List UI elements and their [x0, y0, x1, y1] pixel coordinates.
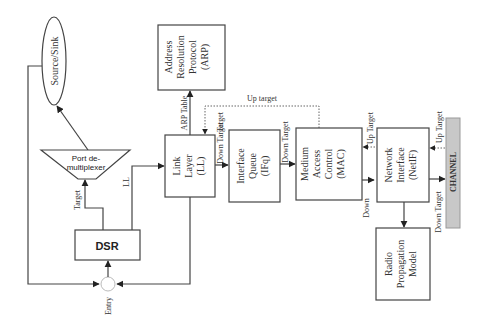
channel-label: CHANNEL: [449, 152, 458, 192]
dsr-label: DSR: [95, 240, 118, 252]
ns2-mobile-node-diagram: Source/Sink Port de- multiplexer Target …: [0, 0, 484, 323]
radio-propagation-node: Radio Propagation Model: [376, 228, 430, 300]
demux-to-sink-arrow: [57, 106, 88, 150]
mac-up-target-label: Up Target: [366, 111, 375, 144]
netif-label-line2: Interface: [395, 147, 406, 183]
mac-label-line1: Medium: [299, 147, 310, 181]
dsr-to-demux-arrow: [85, 180, 103, 230]
arp-label-line2: Resolution: [175, 35, 186, 78]
mac-down-label: Down: [362, 198, 371, 218]
radio-label-line3: Model: [407, 251, 418, 277]
radio-label-line1: Radio: [383, 252, 394, 276]
ll-label-line3: (LL): [195, 157, 207, 176]
source-sink-label: Source/Sink: [49, 37, 60, 86]
entry-label: Entry: [104, 297, 113, 315]
demux-label-line2: multiplexer: [67, 163, 106, 172]
radio-label-line2: Propagation: [395, 240, 406, 288]
netif-up-target-label: Up Target: [435, 110, 444, 143]
arp-label-line1: Address: [163, 41, 174, 74]
mac-label-line4: (MAC): [335, 149, 347, 178]
netif-label-line3: (NetIF): [407, 150, 419, 180]
arp-node: Address Resolution Protocol (ARP): [158, 25, 225, 90]
mac-label-line2: Access: [311, 150, 322, 178]
source-sink-node: Source/Sink: [42, 17, 66, 105]
entry-node: Entry: [101, 277, 115, 315]
ll-edge-label: LL: [122, 177, 131, 187]
up-target-top-label: Up target: [247, 94, 278, 103]
netif-down-target-label: Down Target: [434, 190, 443, 232]
interface-queue-node: Interface Queue (IFq): [229, 130, 280, 202]
ll-label-line1: Link: [171, 157, 182, 176]
arp-table-label: ARP Table: [180, 95, 189, 130]
demux-label-line1: Port de-: [72, 154, 101, 163]
ifq-label-line3: (IFq): [259, 156, 271, 177]
dsr-to-ll-arrow: [132, 166, 164, 230]
network-interface-node: Network Interface (NetIF): [377, 128, 429, 202]
link-layer-node: Link Layer (LL): [165, 135, 215, 197]
dsr-node: DSR: [75, 230, 140, 260]
ifq-label-line1: Interface: [235, 148, 246, 184]
arp-label-line4: (ARP): [199, 44, 211, 70]
mac-label-line3: Control: [323, 149, 334, 180]
mac-node: Medium Access Control (MAC): [296, 128, 362, 200]
ifq-label-line2: Queue: [247, 152, 258, 179]
netif-label-line1: Network: [383, 148, 394, 183]
channel-node: CHANNEL: [446, 118, 460, 228]
arp-label-line3: Protocol: [187, 40, 198, 74]
target-label: Target: [73, 189, 82, 210]
ll-down-target-label: Down Target: [216, 121, 225, 163]
ifq-down-target-label: Down Target: [281, 120, 290, 162]
port-demultiplexer-node: Port de- multiplexer: [41, 150, 130, 179]
ll-label-line2: Layer: [183, 154, 194, 178]
